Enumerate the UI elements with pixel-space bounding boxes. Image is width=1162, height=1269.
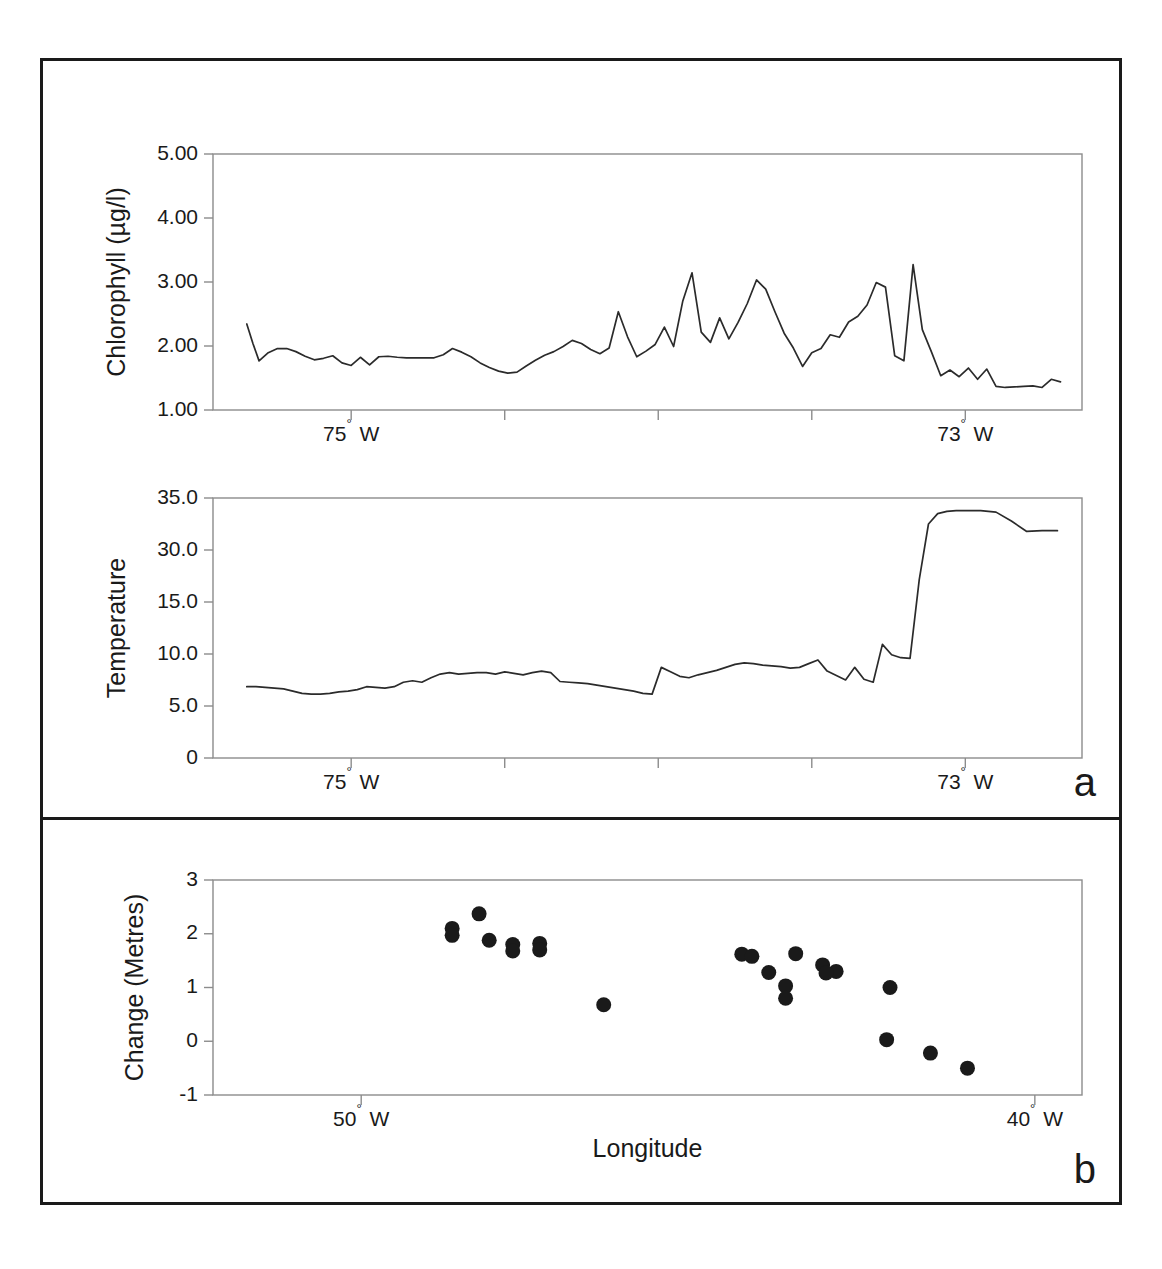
panel-b: 3210-150° W40° WChange (Metres)Longitude… [40,820,1122,1205]
plot-frame [213,498,1082,758]
hemisphere: W [354,770,380,793]
hemisphere: W [968,422,994,445]
y-tick-label: 0 [186,1028,198,1051]
data-point [532,942,547,957]
degree-symbol: ° [346,416,351,431]
y-tick-label: 30.0 [157,537,198,560]
y-tick-label: 2.00 [157,333,198,356]
hemisphere: W [364,1107,390,1130]
panel-a-letter: a [1074,762,1096,802]
y-tick-label: 1 [186,974,198,997]
tick-number: 75 [323,422,346,445]
change-chart: 3210-150° W40° WChange (Metres)Longitude [40,830,1122,1160]
figure-root: 5.004.003.002.001.0075° W73° WChlorophyl… [0,0,1162,1269]
x-tick-label: 75° W [323,764,379,793]
x-tick-label: 40° W [1007,1101,1063,1130]
y-axis-title: Change (Metres) [120,894,148,1082]
y-tick-label: 15.0 [157,589,198,612]
data-point [744,949,759,964]
chlorophyll-plot-area: 5.004.003.002.001.0075° W73° WChlorophyl… [102,141,1082,446]
chlorophyll-chart: 5.004.003.002.001.0075° W73° WChlorophyl… [40,98,1122,488]
chlorophyll-svg: 5.004.003.002.001.0075° W73° WChlorophyl… [40,98,1122,488]
data-series-line [247,511,1058,694]
change-svg: 3210-150° W40° WChange (Metres)Longitude [40,830,1122,1160]
plot-frame [213,880,1082,1095]
tick-number: 40 [1007,1107,1030,1130]
data-point [778,991,793,1006]
y-tick-label: 0 [186,745,198,768]
x-tick-label: 73° W [937,416,993,445]
tick-number: 50 [333,1107,356,1130]
data-point [819,965,834,980]
y-tick-label: 3.00 [157,269,198,292]
x-axis-title: Longitude [593,1134,703,1162]
y-tick-label: 1.00 [157,397,198,420]
data-point [761,965,776,980]
x-tick-label: 75° W [323,416,379,445]
y-axis-title: Chlorophyll (µg/l) [102,187,130,376]
data-point [879,1032,894,1047]
tick-number: 75 [323,770,346,793]
x-tick-label: 73° W [937,764,993,793]
data-point [472,906,487,921]
panel-a: 5.004.003.002.001.0075° W73° WChlorophyl… [40,58,1122,818]
temperature-plot-area: 35.030.015.010.05.0075° W73° WTemperatur… [102,485,1082,794]
y-tick-label: 4.00 [157,205,198,228]
data-series-line [247,265,1061,388]
y-tick-label: 5.00 [157,141,198,164]
data-point [482,933,497,948]
y-tick-label: 5.0 [169,693,198,716]
hemisphere: W [354,422,380,445]
y-tick-label: 2 [186,920,198,943]
data-point [788,946,803,961]
degree-symbol: ° [961,764,966,779]
change-plot-area: 3210-150° W40° WChange (Metres)Longitude [120,867,1082,1162]
data-point [960,1061,975,1076]
data-point [445,928,460,943]
y-tick-label: 3 [186,867,198,890]
data-point [505,943,520,958]
data-point [883,980,898,995]
y-tick-label: 10.0 [157,641,198,664]
panel-b-letter: b [1074,1149,1096,1189]
y-tick-label: 35.0 [157,485,198,508]
data-point [923,1046,938,1061]
degree-symbol: ° [346,764,351,779]
tick-number: 73 [937,422,960,445]
degree-symbol: ° [1030,1101,1035,1116]
temperature-chart: 35.030.015.010.05.0075° W73° WTemperatur… [40,463,1122,818]
degree-symbol: ° [356,1101,361,1116]
degree-symbol: ° [961,416,966,431]
hemisphere: W [968,770,994,793]
tick-number: 73 [937,770,960,793]
y-axis-title: Temperature [102,558,130,698]
x-tick-label: 50° W [333,1101,389,1130]
data-point [596,997,611,1012]
y-tick-label: -1 [179,1082,198,1105]
temperature-svg: 35.030.015.010.05.0075° W73° WTemperatur… [40,463,1122,818]
hemisphere: W [1037,1107,1063,1130]
